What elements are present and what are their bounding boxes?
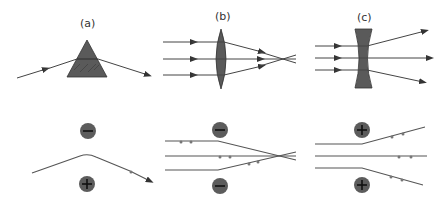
panel-a: (a) [17,17,150,192]
charge-positive-c-bottom [354,177,370,193]
panel-b-label: (b) [215,10,231,23]
charge-positive-a [79,176,95,192]
panel-a-label: (a) [80,17,95,30]
convex-lens-rays [163,42,296,75]
panel-c: (c) [315,11,430,193]
optics-electron-analogy-diagram: (a) (b) [0,0,443,201]
electron-path-a [32,155,130,173]
electron-paths-b [165,141,296,171]
charge-negative-b-bottom [212,178,228,194]
concave-lens-rays [315,31,430,82]
electron-paths-c [315,127,427,185]
charge-positive-c-top [354,122,370,138]
charge-negative-b-top [212,122,228,138]
panel-b: (b) [163,10,296,194]
panel-c-label: (c) [357,11,372,24]
charge-negative-a [80,123,96,139]
prism [67,40,107,77]
